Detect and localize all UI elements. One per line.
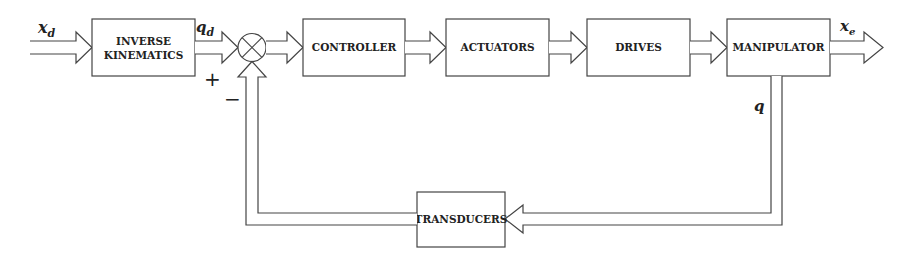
- controller-to-actuators-arrow: [405, 32, 446, 63]
- output-signal-label: xe: [839, 17, 855, 37]
- manipulator-block: MANIPULATOR: [727, 19, 830, 76]
- transducers-label: TRANSDUCERS: [415, 213, 508, 225]
- qd-signal-label: qd: [196, 18, 215, 39]
- inverse-kinematics-block: INVERSE KINEMATICS: [92, 19, 195, 76]
- feedback-return-arrow: [238, 62, 417, 226]
- minus-sign: −: [224, 87, 241, 111]
- output-arrow: [830, 32, 883, 63]
- error-arrow: [266, 32, 303, 63]
- feedback-q-arrow: [505, 76, 782, 233]
- actuators-label: ACTUATORS: [460, 41, 535, 53]
- actuators-to-drives-arrow: [549, 32, 587, 63]
- manipulator-label: MANIPULATOR: [733, 41, 825, 53]
- drives-to-manipulator-arrow: [690, 32, 727, 63]
- inverse-kinematics-label-line1: INVERSE: [116, 35, 171, 47]
- actuators-block: ACTUATORS: [446, 19, 549, 76]
- drives-block: DRIVES: [587, 19, 690, 76]
- controller-block: CONTROLLER: [303, 19, 405, 76]
- drives-label: DRIVES: [615, 41, 661, 53]
- transducers-block: TRANSDUCERS: [415, 192, 508, 247]
- block-diagram: xd INVERSE KINEMATICS qd + − CONTROLLER …: [0, 0, 909, 263]
- controller-label: CONTROLLER: [312, 41, 397, 53]
- qd-arrow: [195, 32, 238, 63]
- input-signal-label: xd: [37, 18, 56, 40]
- inverse-kinematics-label-line2: KINEMATICS: [104, 49, 184, 61]
- plus-sign: +: [204, 67, 221, 91]
- feedback-q-label: q: [754, 97, 765, 115]
- summing-junction: [238, 34, 266, 62]
